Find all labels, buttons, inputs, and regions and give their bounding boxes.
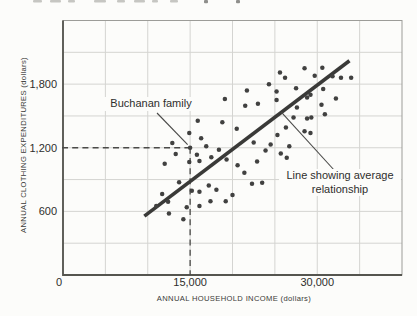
data-point — [323, 112, 328, 117]
data-point — [256, 101, 261, 106]
data-point — [223, 97, 228, 102]
data-point — [177, 180, 182, 185]
buchanan-family-annotation: Buchanan family — [99, 97, 203, 111]
data-point — [334, 96, 339, 101]
trend-line-annotation-line2: relationship — [279, 183, 401, 197]
scatter-points — [154, 65, 353, 221]
data-point — [184, 205, 189, 210]
data-point — [251, 140, 256, 145]
data-point — [278, 70, 283, 75]
data-point — [197, 159, 202, 164]
data-point — [214, 187, 219, 192]
data-point — [187, 131, 192, 136]
data-point — [234, 126, 239, 131]
data-point — [170, 141, 175, 146]
data-point — [308, 131, 313, 136]
data-point — [199, 136, 204, 141]
data-point — [167, 211, 172, 216]
trend-line-annotation: Line showing average relationship — [279, 169, 401, 196]
data-point — [305, 95, 310, 100]
data-point — [217, 148, 222, 153]
scatter-chart-figure: 6001,2001,800015,00030,000 ANNUAL CLOTHI… — [0, 0, 417, 316]
data-point — [207, 183, 212, 188]
trend-line-annotation-line1: Line showing average — [279, 169, 401, 183]
trend-label-leader-line — [282, 112, 335, 170]
data-point — [209, 155, 214, 160]
data-point — [250, 182, 255, 187]
data-point — [302, 66, 307, 71]
data-point — [267, 82, 272, 87]
data-point — [302, 129, 307, 134]
data-point — [274, 89, 279, 94]
data-point — [224, 157, 229, 162]
data-point — [190, 188, 195, 193]
data-point — [188, 146, 193, 151]
data-point — [268, 142, 273, 147]
data-point — [260, 180, 265, 185]
y-tick-label: 1,200 — [29, 142, 57, 154]
data-point — [287, 144, 292, 149]
data-point — [349, 76, 354, 81]
data-point — [294, 86, 299, 91]
data-point — [320, 65, 325, 70]
x-tick-label: 30,000 — [300, 276, 334, 288]
data-point — [255, 159, 260, 164]
buchanan-leader-line — [157, 113, 188, 145]
y-tick-label: 1,800 — [29, 78, 57, 90]
data-point — [321, 87, 326, 92]
data-point — [283, 76, 288, 81]
data-point — [242, 170, 247, 175]
data-point — [196, 118, 201, 123]
cropped-text-fragment — [33, 0, 240, 3]
data-point — [173, 152, 178, 157]
x-tick-label: 15,000 — [173, 276, 207, 288]
data-point — [208, 199, 213, 204]
data-point — [195, 152, 200, 157]
data-point — [162, 161, 167, 166]
data-point — [220, 120, 225, 125]
data-point — [197, 204, 202, 209]
data-point — [330, 74, 335, 79]
data-point — [245, 88, 250, 93]
data-point — [275, 133, 280, 138]
data-point — [274, 98, 279, 103]
y-axis-title: ANNUAL CLOTHING EXPENDITURES (dollars) — [19, 57, 28, 233]
x-tick-label: 0 — [56, 276, 62, 288]
data-point — [197, 190, 202, 195]
chart-canvas: 6001,2001,800015,00030,000 — [0, 0, 417, 316]
data-point — [160, 192, 165, 197]
data-point — [339, 76, 344, 81]
data-point — [166, 200, 171, 205]
data-point — [284, 156, 289, 161]
data-point — [154, 204, 159, 209]
x-axis-title: ANNUAL HOUSEHOLD INCOME (dollars) — [157, 294, 311, 303]
data-point — [305, 116, 310, 121]
data-point — [295, 105, 300, 110]
data-point — [235, 163, 240, 168]
y-tick-label: 600 — [39, 205, 57, 217]
data-point — [230, 193, 235, 198]
data-point — [187, 160, 192, 165]
data-point — [309, 115, 314, 120]
data-point — [204, 144, 209, 149]
data-point — [319, 103, 324, 108]
data-point — [243, 104, 248, 109]
data-point — [279, 151, 284, 156]
data-point — [291, 115, 296, 120]
data-point — [312, 73, 317, 78]
data-point — [181, 217, 186, 222]
data-point — [284, 125, 289, 130]
data-point — [223, 199, 228, 204]
data-point — [263, 148, 268, 153]
